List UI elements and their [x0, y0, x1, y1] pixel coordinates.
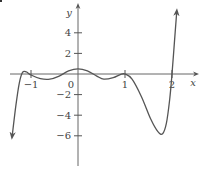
function-graph: −101242−2−4−6xy [0, 0, 202, 169]
y-axis-label: y [65, 7, 72, 18]
x-tick-label: 1 [122, 79, 128, 90]
y-tick-label: −2 [56, 89, 71, 100]
y-tick-label: 4 [65, 27, 71, 38]
y-tick-label: −4 [56, 110, 71, 121]
y-tick-label: 2 [65, 48, 71, 59]
x-tick-label: −1 [24, 79, 39, 90]
x-axis-label: x [190, 77, 196, 88]
y-tick-label: −6 [56, 130, 71, 141]
